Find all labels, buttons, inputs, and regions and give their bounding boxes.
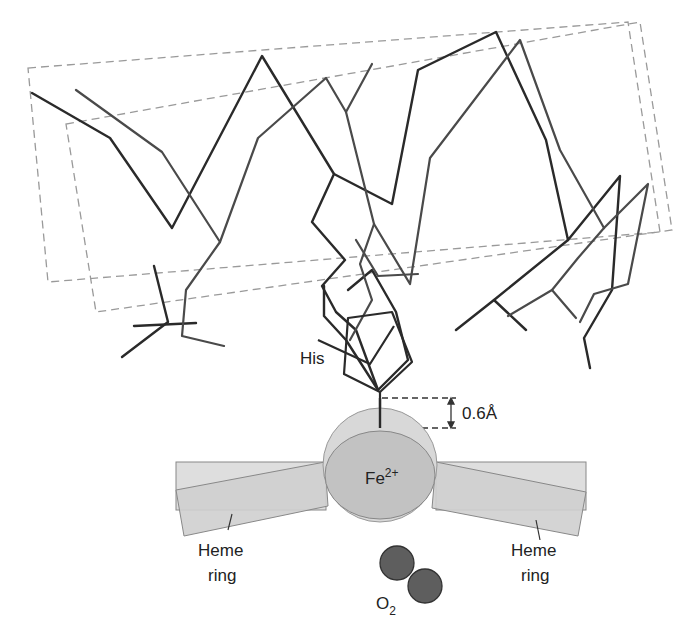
heme-right-label-line2: ring: [521, 566, 549, 585]
heme-ring-right: [432, 462, 586, 536]
heme-left-label-line1: Heme: [198, 541, 243, 560]
diagram-svg: His 0.6Å Fe2+ Heme ring Heme ring O2: [0, 0, 692, 631]
helix-boxes: [28, 22, 672, 312]
o2-label: O2: [376, 594, 396, 618]
heme-diagram: His 0.6Å Fe2+ Heme ring Heme ring O2: [0, 0, 692, 631]
heme-ring-left: [176, 462, 328, 536]
protein-backbone: [32, 32, 648, 390]
distance-label: 0.6Å: [462, 404, 498, 423]
heme-right-label-line1: Heme: [511, 541, 556, 560]
oxygen-molecule: [380, 546, 442, 603]
his-label: His: [300, 349, 325, 368]
heme-left-label-line2: ring: [208, 566, 236, 585]
